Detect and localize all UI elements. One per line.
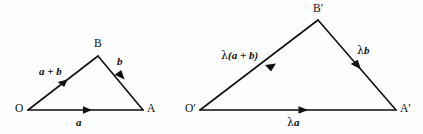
arrowhead-o-a	[83, 106, 92, 114]
vertex-label-b: B	[94, 38, 102, 50]
lambda-a-operand: a	[294, 116, 300, 128]
diagram-canvas	[0, 0, 423, 134]
vertex-label-a: A	[147, 103, 155, 115]
vertex-label-o: O	[15, 103, 23, 115]
vector-label-lambda-a-plus-b: λ(a + b)	[221, 50, 258, 61]
vertex-label-a-prime: A′	[400, 103, 411, 115]
lambda-b-operand: b	[364, 44, 370, 56]
vertex-label-b-prime: B′	[313, 3, 323, 15]
vertex-label-o-prime: O′	[185, 103, 196, 115]
lambda-symbol-a: λ	[287, 116, 294, 129]
vector-label-lambda-a: λa	[287, 117, 299, 128]
vector-label-b: b	[117, 56, 123, 67]
arrowhead-op-ap	[299, 106, 309, 114]
arrowhead-bp-ap	[351, 60, 361, 70]
vector-label-a-plus-b: a + b	[39, 66, 62, 77]
vector-label-lambda-b: λb	[357, 45, 369, 56]
lambda-a-plus-b-operand: (a + b)	[228, 49, 258, 61]
edge-op-bp	[200, 20, 318, 110]
vector-diagram-figure: O A B O′ A′ B′ a a + b b λa λ(a + b) λb	[0, 0, 423, 134]
triangle-oab-prime	[200, 20, 396, 114]
vector-label-a: a	[76, 117, 82, 128]
lambda-symbol-a-plus-b: λ	[221, 49, 228, 62]
arrowhead-op-bp	[265, 64, 276, 72]
lambda-symbol-b: λ	[357, 44, 364, 57]
